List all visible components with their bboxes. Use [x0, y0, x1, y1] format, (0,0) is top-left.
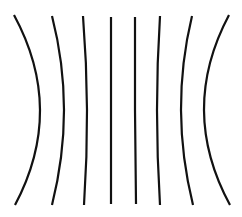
field-line	[157, 16, 160, 205]
field-lines-diagram	[0, 0, 242, 217]
field-line	[181, 16, 193, 205]
field-line	[83, 16, 87, 205]
field-lines-group	[14, 15, 230, 205]
field-line	[14, 15, 40, 205]
field-line	[135, 17, 136, 204]
field-line	[204, 15, 230, 205]
field-line	[52, 16, 64, 205]
